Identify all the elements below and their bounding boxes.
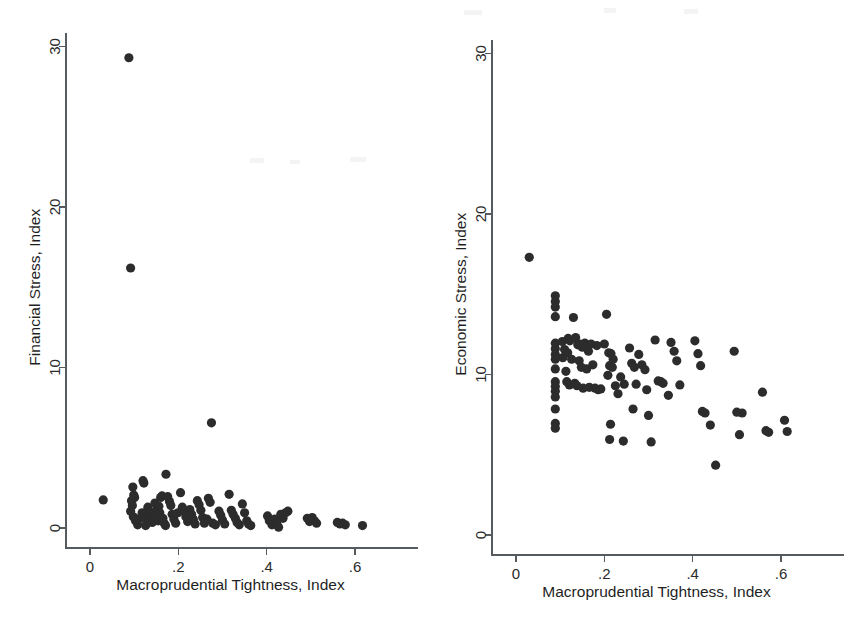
data-point: [693, 349, 702, 358]
data-point: [240, 508, 249, 517]
data-point: [191, 519, 200, 528]
data-point: [206, 498, 215, 507]
data-point: [628, 404, 637, 413]
y-axis-title: Economic Stress, Index: [452, 213, 469, 376]
data-point: [658, 379, 667, 388]
data-point: [670, 347, 679, 356]
panel-financial-stress: 01020300.2.4.6Macroprudential Tightness,…: [0, 0, 424, 624]
data-point: [780, 416, 789, 425]
y-tick-label: 30: [46, 38, 63, 55]
data-point: [711, 461, 720, 470]
data-point: [651, 335, 660, 344]
data-point: [642, 385, 651, 394]
data-point: [608, 363, 617, 372]
data-point: [99, 495, 108, 504]
data-point: [551, 424, 560, 433]
y-tick-label: 30: [472, 45, 489, 62]
data-point: [634, 350, 643, 359]
data-point: [173, 508, 182, 517]
data-point: [358, 521, 367, 530]
data-point: [551, 364, 560, 373]
data-point: [696, 361, 705, 370]
data-point: [220, 519, 229, 528]
data-point: [283, 507, 292, 516]
y-tick-label: 20: [46, 199, 63, 216]
smudge-artifacts: [464, 8, 698, 15]
data-point: [735, 430, 744, 439]
data-point: [141, 521, 150, 530]
y-tick-label: 0: [46, 524, 63, 532]
data-point: [644, 411, 653, 420]
data-point: [525, 253, 534, 262]
x-tick-label: .6: [349, 558, 362, 575]
data-point: [561, 367, 570, 376]
data-point: [551, 312, 560, 321]
data-point: [603, 371, 612, 380]
data-point: [632, 380, 641, 389]
data-point: [166, 501, 175, 510]
data-point: [783, 427, 792, 436]
data-point: [666, 338, 675, 347]
y-tick-label: 10: [472, 366, 489, 383]
data-point: [606, 420, 615, 429]
data-point: [602, 310, 611, 319]
data-point: [171, 519, 180, 528]
panel-economic-stress: 01020300.2.4.6Macroprudential Tightness,…: [424, 0, 849, 624]
x-tick-label: 0: [86, 558, 94, 575]
axes-group-right: [485, 40, 844, 563]
data-point: [675, 380, 684, 389]
x-tick-label: .4: [686, 565, 699, 582]
financial-stress-plot: 01020300.2.4.6Macroprudential Tightness,…: [0, 0, 424, 624]
data-point: [738, 408, 747, 417]
data-points-right: [525, 253, 792, 470]
data-point: [764, 428, 773, 437]
axis-spine: [66, 33, 418, 549]
data-point: [611, 381, 620, 390]
data-point: [640, 365, 649, 374]
data-point: [135, 514, 144, 523]
data-point: [274, 523, 283, 532]
scatter-figure: 01020300.2.4.6Macroprudential Tightness,…: [0, 0, 849, 624]
data-point: [551, 392, 560, 401]
data-point: [128, 482, 137, 491]
data-point: [161, 470, 170, 479]
data-point: [730, 347, 739, 356]
data-point: [126, 263, 135, 272]
axis-labels-right: 01020300.2.4.6Macroprudential Tightness,…: [452, 45, 788, 600]
x-tick-label: 0: [512, 565, 520, 582]
data-point: [551, 302, 560, 311]
data-point: [139, 478, 148, 487]
data-point: [225, 490, 234, 499]
data-point: [706, 420, 715, 429]
x-axis-title: Macroprudential Tightness, Index: [542, 583, 771, 600]
data-point: [312, 519, 321, 528]
data-point: [700, 408, 709, 417]
data-point: [625, 343, 634, 352]
data-point: [569, 313, 578, 322]
data-point: [551, 404, 560, 413]
data-point: [647, 437, 656, 446]
y-tick-label: 0: [472, 531, 489, 539]
y-axis-title: Financial Stress, Index: [26, 209, 43, 366]
data-point: [605, 435, 614, 444]
data-point: [613, 389, 622, 398]
data-point: [672, 356, 681, 365]
data-point: [592, 341, 601, 350]
data-point: [619, 437, 628, 446]
data-point: [341, 520, 350, 529]
x-tick-label: .6: [775, 565, 788, 582]
data-point: [149, 508, 158, 517]
x-axis-title: Macroprudential Tightness, Index: [116, 576, 345, 593]
data-point: [584, 347, 593, 356]
axis-spine: [492, 40, 844, 556]
data-point: [596, 384, 605, 393]
data-point: [238, 499, 247, 508]
x-tick-label: .2: [598, 565, 611, 582]
smudge-artifacts: [250, 157, 366, 164]
x-tick-label: .4: [260, 558, 273, 575]
y-tick-label: 10: [46, 359, 63, 376]
y-tick-label: 20: [472, 206, 489, 223]
data-point: [690, 336, 699, 345]
data-point: [246, 521, 255, 530]
data-point: [758, 388, 767, 397]
